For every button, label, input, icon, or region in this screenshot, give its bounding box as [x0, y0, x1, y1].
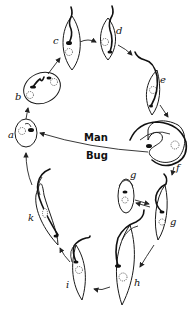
host-label-man: Man [84, 133, 108, 143]
stage-g-flagellated-cell [155, 174, 167, 240]
stage-e-cell [135, 52, 160, 115]
stage-f-cell [130, 121, 186, 166]
host-label-bug: Bug [86, 151, 108, 161]
stage-label-c: c [53, 36, 59, 46]
stage-label-i: i [66, 280, 69, 290]
stage-label-k: k [28, 213, 34, 223]
stage-label-b: b [15, 92, 21, 102]
stage-a-cell [15, 119, 37, 147]
stage-label-f: f [176, 163, 180, 173]
stage-i-cell [71, 236, 90, 300]
stage-g-oval-cell [118, 179, 134, 213]
stage-label-d: d [116, 26, 122, 36]
stage-k-cell [36, 169, 59, 245]
stage-label-a: a [8, 130, 14, 140]
stage-c-cell [63, 7, 80, 70]
stage-label-e: e [160, 75, 166, 85]
stage-b-cell [18, 66, 65, 109]
stage-d-cell [101, 6, 116, 60]
stage-h-cell [115, 210, 144, 305]
stage-label-h: h [134, 278, 140, 288]
stage-label-g-flagellated: g [170, 217, 176, 227]
stage-label-g-oval: g [130, 170, 136, 180]
